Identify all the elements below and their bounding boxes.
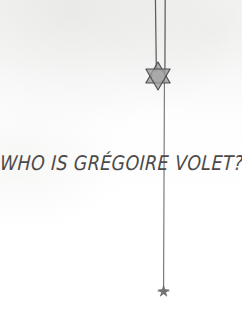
left-cord-line xyxy=(155,0,156,74)
caption-text: WHO IS GRÉGOIRE VOLET? xyxy=(0,150,242,176)
sketch-canvas: WHO IS GRÉGOIRE VOLET? xyxy=(0,0,242,313)
small-star-icon xyxy=(158,286,169,297)
star-of-david-icon xyxy=(146,62,170,90)
main-cord-line xyxy=(164,78,165,290)
